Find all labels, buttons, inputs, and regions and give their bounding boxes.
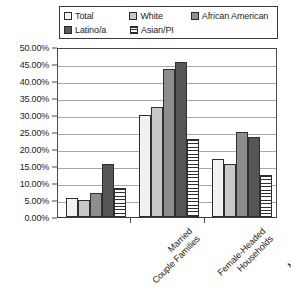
bar-aa — [236, 132, 248, 217]
legend-swatch-asian-pi-icon — [130, 26, 138, 34]
y-axis: 50.00%45.00%40.00%35.00%30.00%25.00%20.0… — [0, 48, 57, 218]
y-axis-tick-label: 25.00% — [20, 129, 49, 138]
bar-groups — [58, 49, 276, 217]
bar-asian — [260, 175, 272, 218]
plot-area — [57, 48, 277, 218]
bar-white — [151, 107, 163, 218]
x-axis-label: MarriedCouple Families — [142, 226, 202, 286]
y-axis-tick-label: 15.00% — [20, 163, 49, 172]
bar-white — [78, 200, 90, 217]
legend-label-latino: Latino/a — [75, 25, 106, 35]
bar-total — [66, 198, 78, 217]
bar-white — [224, 164, 236, 217]
bar-total — [139, 115, 151, 217]
bar-aa — [163, 69, 175, 217]
legend-swatch-african-american-icon — [191, 12, 199, 20]
legend-entry-latino: Latino/a — [64, 25, 130, 35]
bar-latino — [102, 164, 114, 217]
y-axis-tick-label: 30.00% — [20, 112, 49, 121]
x-axis-label: Female-HeadedHouseholds — [216, 226, 276, 286]
y-axis-tick-label: 5.00% — [24, 197, 49, 206]
y-axis-tick-label: 50.00% — [20, 44, 49, 53]
legend-swatch-total-icon — [64, 12, 72, 20]
legend-entry-white: White — [129, 11, 190, 21]
legend-label-african-american: African American — [202, 11, 268, 21]
legend-entry-african-american: African American — [191, 11, 274, 21]
bar-aa — [90, 193, 102, 217]
bar-total — [212, 159, 224, 217]
legend-label-white: White — [140, 11, 163, 21]
bar-group — [212, 49, 272, 217]
bar-group — [66, 49, 126, 217]
y-axis-tick-label: 35.00% — [20, 95, 49, 104]
legend-entry-total: Total — [64, 11, 129, 21]
y-axis-tick-label: 10.00% — [20, 180, 49, 189]
chart-legend: Total White African American Latino/a As… — [59, 6, 278, 39]
bar-asian — [114, 188, 126, 217]
x-axis-labels: MarriedCouple FamiliesFemale-HeadedHouse… — [0, 222, 291, 304]
bar-group — [139, 49, 199, 217]
legend-row-1: Total White African American — [64, 9, 274, 23]
x-axis-label: Male-HeadedHouseholds — [286, 226, 291, 279]
legend-label-asian-pi: Asian/PI — [141, 25, 174, 35]
y-axis-tick-label: 20.00% — [20, 146, 49, 155]
y-axis-tick-label: 40.00% — [20, 78, 49, 87]
legend-swatch-latino-icon — [64, 26, 72, 34]
legend-label-total: Total — [75, 11, 94, 21]
y-axis-tick-label: 45.00% — [20, 61, 49, 70]
legend-entry-asian-pi: Asian/PI — [130, 25, 214, 35]
bar-latino — [175, 62, 187, 217]
bar-asian — [187, 139, 199, 217]
legend-row-2: Latino/a Asian/PI — [64, 23, 274, 37]
bar-latino — [248, 137, 260, 217]
legend-swatch-white-icon — [129, 12, 137, 20]
